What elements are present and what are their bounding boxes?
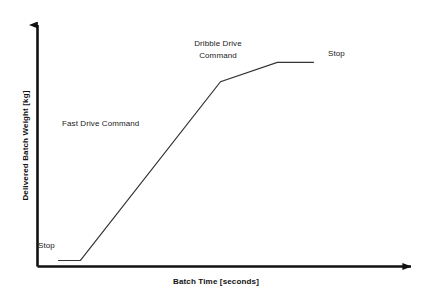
annotation-stop-end: Stop — [328, 48, 345, 60]
annotation-dribble-line-2: Command — [199, 51, 237, 60]
annotation-fast-drive-command: Fast Drive Command — [62, 118, 139, 130]
y-axis-title: Delivered Batch Weight [kg] — [21, 21, 30, 271]
data-series-line — [58, 62, 314, 260]
annotation-dribble-drive-command: Dribble DriveCommand — [182, 38, 254, 61]
x-axis-title: Batch Time [seconds] — [0, 277, 432, 286]
y-axis-title-container: Delivered Batch Weight [kg] — [0, 0, 30, 290]
chart-figure: Delivered Batch Weight [kg] Batch Time [… — [0, 0, 432, 301]
annotation-dribble-line-1: Dribble Drive — [194, 39, 242, 48]
annotation-stop-start: Stop — [38, 240, 55, 252]
